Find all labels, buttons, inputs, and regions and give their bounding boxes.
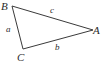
vertex-label-a: A (93, 25, 100, 36)
side-label-b: b (55, 43, 60, 52)
triangle-figure: B A C a b c (0, 0, 103, 67)
vertex-label-c: C (17, 52, 24, 63)
side-label-c: c (50, 6, 54, 15)
vertex-label-b: B (1, 1, 8, 12)
side-label-a: a (6, 25, 11, 34)
